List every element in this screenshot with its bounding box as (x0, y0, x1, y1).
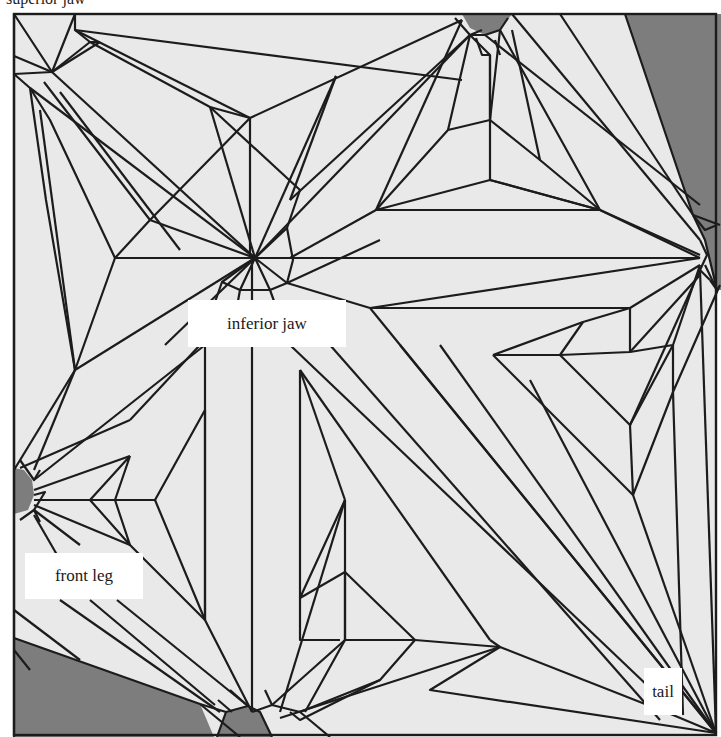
tail-label: tail (644, 668, 682, 715)
inferior-jaw-label: inferior jaw (188, 300, 346, 347)
crease-pattern (0, 0, 721, 737)
front-leg-label: front leg (25, 553, 143, 599)
